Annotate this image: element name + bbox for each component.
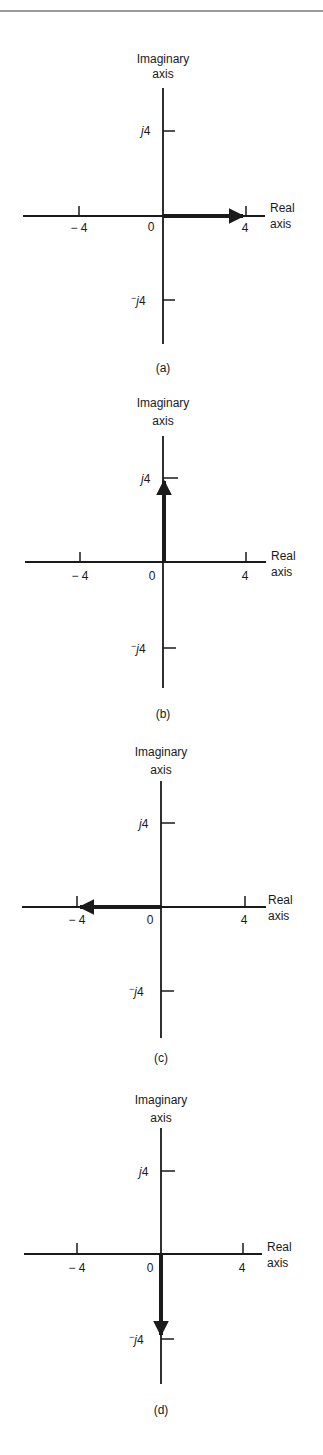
label-neg4: − 4 bbox=[68, 1261, 85, 1275]
label-neg4: − 4 bbox=[68, 913, 85, 927]
real-axis-label-2: axis bbox=[270, 217, 291, 231]
caption: (d) bbox=[154, 1403, 169, 1417]
caption: (c) bbox=[154, 1051, 168, 1065]
real-axis-label-2: axis bbox=[267, 1256, 288, 1270]
label-pos4: 4 bbox=[242, 569, 249, 583]
real-axis-label-2: axis bbox=[271, 565, 292, 579]
label-origin: 0 bbox=[147, 913, 154, 927]
real-axis-label: Real bbox=[268, 893, 293, 907]
label-neg4: − 4 bbox=[70, 221, 87, 235]
label-pos4: 4 bbox=[242, 221, 249, 235]
imag-axis-label-2: axis bbox=[152, 67, 173, 81]
label-origin: 0 bbox=[147, 1261, 154, 1275]
label-neg-j4: −j4 bbox=[131, 641, 146, 656]
real-axis-label: Real bbox=[267, 1240, 292, 1254]
label-j4: j4 bbox=[137, 1165, 149, 1179]
label-j4: j4 bbox=[139, 124, 151, 138]
imag-axis-label: Imaginary bbox=[137, 396, 190, 410]
label-neg-j4: −j4 bbox=[129, 1332, 144, 1347]
real-axis-label: Real bbox=[270, 201, 295, 215]
panel-b: Imaginary axis − 4 0 4 Real axis j4 −j4 … bbox=[25, 396, 296, 721]
imag-axis-label: Imaginary bbox=[135, 1093, 188, 1107]
label-origin: 0 bbox=[148, 220, 155, 234]
caption: (a) bbox=[156, 361, 171, 375]
complex-plane-figure: Imaginary axis − 4 0 4 Real axis j4 −j4 … bbox=[0, 0, 323, 1455]
panel-d: Imaginary axis − 4 0 4 Real axis j4 −j4 … bbox=[24, 1093, 292, 1417]
label-neg-j4: −j4 bbox=[131, 293, 146, 308]
label-origin: 0 bbox=[149, 569, 156, 583]
imag-axis-label-2: axis bbox=[150, 1111, 171, 1125]
imag-axis-label: Imaginary bbox=[137, 52, 190, 66]
imag-axis-label-2: axis bbox=[150, 763, 171, 777]
label-pos4: 4 bbox=[241, 913, 248, 927]
real-axis-label: Real bbox=[271, 549, 296, 563]
panel-c: Imaginary axis − 4 0 4 Real axis j4 −j4 … bbox=[22, 745, 293, 1065]
imag-axis-label-2: axis bbox=[152, 414, 173, 428]
label-pos4: 4 bbox=[239, 1261, 246, 1275]
caption: (b) bbox=[156, 707, 171, 721]
imag-axis-label: Imaginary bbox=[135, 745, 188, 759]
label-j4: j4 bbox=[137, 817, 149, 831]
real-axis-label-2: axis bbox=[268, 909, 289, 923]
label-neg-j4: −j4 bbox=[129, 984, 144, 999]
label-neg4: − 4 bbox=[71, 569, 88, 583]
label-j4: j4 bbox=[139, 472, 151, 486]
panel-a: Imaginary axis − 4 0 4 Real axis j4 −j4 … bbox=[23, 52, 295, 375]
